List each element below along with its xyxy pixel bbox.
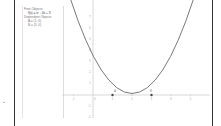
- svg-text:-1: -1: [88, 104, 91, 108]
- point-b-label: B: [150, 89, 152, 93]
- svg-text:2: 2: [131, 97, 133, 101]
- point-a[interactable]: [111, 94, 113, 96]
- svg-text:3: 3: [89, 59, 91, 63]
- svg-text:7: 7: [89, 15, 91, 19]
- svg-text:2: 2: [89, 70, 91, 74]
- svg-text:5: 5: [89, 37, 91, 41]
- svg-text:3: 3: [151, 97, 153, 101]
- algebra-view: Free Objects f(x) = x² - 4x + 3 Dependen…: [22, 6, 64, 118]
- svg-text:5: 5: [190, 97, 192, 101]
- svg-text:1: 1: [112, 97, 114, 101]
- svg-text:0: 0: [94, 97, 96, 101]
- svg-text:-1: -1: [72, 97, 75, 101]
- point-a-label: A: [114, 89, 116, 93]
- point-b[interactable]: [150, 94, 152, 96]
- graphics-view[interactable]: -1 0 1 2 3 4 5 7 6 5 4 3 2 1 -1 -2 A B: [62, 0, 213, 126]
- svg-text:1: 1: [89, 81, 91, 85]
- svg-text:-2: -2: [88, 115, 91, 119]
- point-b-entry[interactable]: B = (3, 0): [28, 23, 41, 27]
- page-artifact: [3, 102, 5, 103]
- svg-text:6: 6: [89, 26, 91, 30]
- x-tick-labels: -1 0 1 2 3 4 5: [72, 97, 192, 101]
- svg-text:4: 4: [170, 97, 172, 101]
- y-tick-labels: 7 6 5 4 3 2 1 -1 -2: [88, 15, 91, 119]
